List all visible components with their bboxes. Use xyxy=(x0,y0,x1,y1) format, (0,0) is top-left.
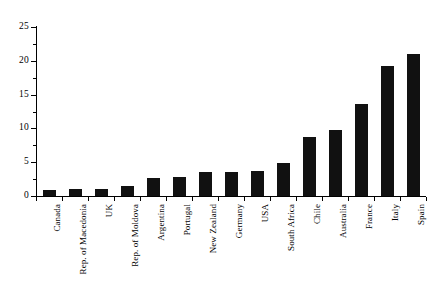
bar xyxy=(69,189,82,196)
bar xyxy=(199,172,212,196)
plot-area xyxy=(36,27,426,196)
x-axis-tick xyxy=(166,197,167,201)
bar xyxy=(225,172,238,196)
bar xyxy=(43,190,56,196)
bar xyxy=(147,178,160,196)
y-axis-tick-label-wrap: 10 xyxy=(0,123,29,133)
y-axis-tick-label: 25 xyxy=(3,22,29,32)
x-axis-category-label: Rep. of Macedonia xyxy=(79,204,88,274)
bar xyxy=(303,137,316,196)
x-axis-category-label: Canada xyxy=(53,204,62,232)
x-axis-category-label: Australia xyxy=(339,204,348,238)
y-axis-tick-label: 0 xyxy=(3,191,29,201)
bar xyxy=(277,163,290,196)
x-axis-tick xyxy=(426,197,427,201)
y-axis-tick-label: 15 xyxy=(3,90,29,100)
x-axis-tick xyxy=(218,197,219,201)
bar xyxy=(329,130,342,196)
x-axis-tick xyxy=(36,197,37,201)
x-axis-category-label: Spain xyxy=(417,204,426,225)
x-axis-category-label: Germany xyxy=(235,204,244,238)
y-axis-tick-label-wrap: 20 xyxy=(0,56,29,66)
x-axis-category-label: New Zealand xyxy=(209,204,218,253)
x-axis-tick xyxy=(192,197,193,201)
x-axis-category-label: Argentina xyxy=(157,204,166,241)
y-axis-tick-label-wrap: 0 xyxy=(0,191,29,201)
x-axis-category-label: Italy xyxy=(391,204,400,221)
x-axis-category-label: South Africa xyxy=(287,204,296,251)
x-axis-tick xyxy=(400,197,401,201)
x-axis-tick xyxy=(270,197,271,201)
bar xyxy=(251,171,264,196)
x-axis-category-label: USA xyxy=(261,204,270,222)
x-axis-tick xyxy=(296,197,297,201)
x-axis-tick xyxy=(322,197,323,201)
x-axis-tick xyxy=(62,197,63,201)
x-axis-tick xyxy=(374,197,375,201)
y-axis-tick-label: 5 xyxy=(3,157,29,167)
x-axis-category-label: Rep. of Moldova xyxy=(131,204,140,267)
x-axis-category-label: Chile xyxy=(313,204,322,224)
x-axis-tick xyxy=(88,197,89,201)
x-axis-category-label: UK xyxy=(105,204,114,217)
x-axis-tick xyxy=(140,197,141,201)
bar xyxy=(121,186,134,196)
x-axis-category-label: Portugal xyxy=(183,204,192,235)
y-axis-tick-label: 10 xyxy=(3,123,29,133)
bar xyxy=(95,189,108,196)
x-axis-tick xyxy=(114,197,115,201)
bar xyxy=(407,54,420,196)
bar xyxy=(355,104,368,196)
x-axis-tick xyxy=(244,197,245,201)
y-axis-tick-label-wrap: 25 xyxy=(0,22,29,32)
bar xyxy=(381,66,394,196)
x-axis-category-label: France xyxy=(365,204,374,229)
y-axis-tick-label: 20 xyxy=(3,56,29,66)
x-axis-line xyxy=(36,196,426,197)
y-axis-tick-label-wrap: 15 xyxy=(0,90,29,100)
y-axis-tick-label-wrap: 5 xyxy=(0,157,29,167)
x-axis-tick xyxy=(348,197,349,201)
bar xyxy=(173,177,186,196)
bar-chart: 0510152025 CanadaRep. of MacedoniaUKRep.… xyxy=(0,0,435,298)
